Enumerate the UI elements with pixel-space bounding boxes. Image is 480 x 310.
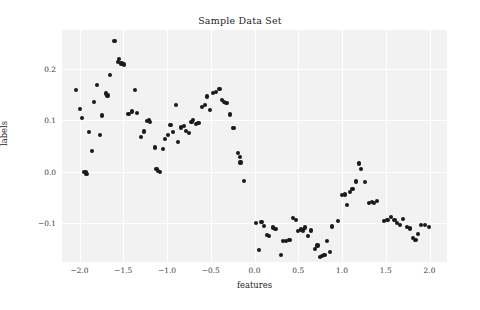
scatter-point [217,87,221,91]
scatter-point [78,107,82,111]
y-axis-label: labels [0,121,9,146]
scatter-point [336,219,340,223]
scatter-point [117,57,121,61]
scatter-point [309,228,313,232]
scatter-point [330,224,334,228]
scatter-point [315,243,319,247]
x-tick-label: 0.0 [249,266,261,275]
scatter-point [231,126,235,130]
x-tick-label: −2.0 [71,266,89,275]
scatter-point [267,234,271,238]
y-tick-label: 0.2 [56,64,68,73]
scatter-point [108,73,112,77]
scatter-point [350,187,354,191]
scatter-point [90,149,94,153]
scatter-point [228,112,232,116]
x-axis-label: features [62,280,447,290]
scatter-point [279,253,283,257]
scatter-point [413,238,417,242]
scatter-point [92,100,96,104]
x-tick-label: −0.5 [202,266,220,275]
scatter-point [357,161,361,165]
scatter-point [87,130,91,134]
scatter-point [166,133,170,137]
figure-canvas: Sample Data Set −2.0−1.5−1.0−0.50.00.51.… [0,0,480,310]
scatter-point [363,180,367,184]
scatter-point [242,179,246,183]
scatter-point [294,218,298,222]
scatter-point [224,101,228,105]
scatter-point [142,129,146,133]
gridline-vertical [386,30,387,262]
scatter-point [196,121,200,125]
scatter-point [174,103,178,107]
scatter-point [398,223,402,227]
x-tick-label: 2.0 [424,266,436,275]
y-tick-label: 0.1 [56,116,68,125]
scatter-point [122,62,126,66]
gridline-vertical [255,30,256,262]
scatter-point [322,253,326,257]
scatter-point [401,217,405,221]
scatter-point [105,93,109,97]
scatter-point [135,111,139,115]
scatter-point [416,232,420,236]
scatter-point [427,225,431,229]
scatter-point [359,167,363,171]
x-tick-label: 1.5 [380,266,392,275]
gridline-horizontal [62,172,447,173]
scatter-point [238,160,242,164]
gridline-horizontal [62,120,447,121]
x-tick-label: 1.0 [336,266,348,275]
gridline-vertical [167,30,168,262]
scatter-point [168,123,172,127]
scatter-point [238,155,242,159]
x-tick-label: −1.5 [114,266,132,275]
scatter-point [303,225,307,229]
scatter-point [112,39,116,43]
scatter-point [158,170,162,174]
scatter-point [148,120,152,124]
scatter-point [100,113,104,117]
scatter-point [187,131,191,135]
scatter-point [205,94,209,98]
scatter-point [343,192,347,196]
scatter-point [257,248,261,252]
scatter-point [354,179,358,183]
scatter-point [254,221,258,225]
scatter-point [375,199,379,203]
scatter-point [313,247,317,251]
x-tick-label: −1.0 [158,266,176,275]
scatter-point [262,224,266,228]
scatter-point [130,109,134,113]
y-tick-label: 0.0 [56,167,68,176]
scatter-point [408,226,412,230]
x-tick-label: 0.5 [292,266,304,275]
scatter-point [74,88,78,92]
scatter-point [139,135,143,139]
scatter-point [171,130,175,134]
scatter-point [176,140,180,144]
scatter-point [385,218,389,222]
scatter-point [161,147,165,151]
chart-title: Sample Data Set [0,15,480,26]
scatter-point [287,238,291,242]
gridline-vertical [342,30,343,262]
scatter-point [203,103,207,107]
scatter-point [273,227,277,231]
scatter-point [95,83,99,87]
scatter-point [208,108,212,112]
scatter-point [345,203,349,207]
scatter-point [325,239,329,243]
scatter-point [182,124,186,128]
scatter-point [98,133,102,137]
scatter-point [153,145,157,149]
gridline-vertical [80,30,81,262]
plot-area [62,30,447,262]
scatter-point [306,234,310,238]
gridline-vertical [211,30,212,262]
gridline-horizontal [62,69,447,70]
scatter-point [133,88,137,92]
y-tick-label: −0.1 [56,219,74,228]
scatter-point [328,250,332,254]
